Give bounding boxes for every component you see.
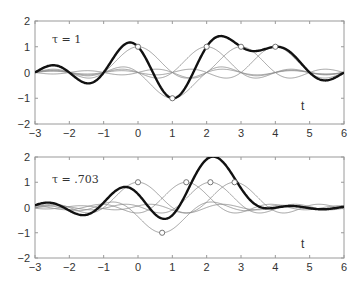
x-tick-label: 4	[272, 261, 278, 273]
sinc-pulse-curve	[35, 47, 344, 78]
x-tick-label: −2	[63, 261, 76, 273]
sample-marker	[170, 96, 175, 101]
annotation-tau-1: τ = 1	[52, 33, 81, 46]
y-tick-label: 2	[24, 15, 30, 27]
y-tick-label: 2	[24, 151, 30, 163]
plot-tau-0703: −3−2−10123456210−1−2	[17, 151, 347, 273]
sample-marker	[232, 180, 237, 185]
x-tick-label: 0	[135, 261, 141, 273]
y-tick-label: −1	[17, 92, 30, 104]
x-tick-label: 3	[238, 127, 244, 139]
figure: −3−2−10123456210−1−2 −3−2−10123456210−1−…	[0, 0, 364, 285]
sample-marker	[204, 44, 209, 49]
y-tick-label: 0	[24, 202, 30, 214]
axes-box	[35, 21, 344, 124]
x-tick-label: −3	[29, 261, 42, 273]
sample-marker	[135, 44, 140, 49]
x-tick-label: 6	[341, 261, 347, 273]
x-tick-label: −3	[29, 127, 42, 139]
x-tick-label: −1	[97, 261, 110, 273]
y-tick-label: −2	[17, 252, 30, 264]
x-tick-label: 4	[272, 127, 278, 139]
sinc-pulse-curve	[35, 47, 344, 78]
sample-marker	[238, 44, 243, 49]
sample-marker	[160, 230, 165, 235]
x-axis-label-bottom: t	[301, 237, 305, 251]
y-tick-label: 0	[24, 67, 30, 79]
sinc-pulse-curve	[35, 47, 344, 78]
sample-marker	[135, 180, 140, 185]
x-axis-label-top: t	[301, 99, 305, 113]
y-tick-label: 1	[24, 176, 30, 188]
x-tick-label: −1	[97, 127, 110, 139]
y-tick-label: −1	[17, 227, 30, 239]
x-tick-label: 5	[307, 127, 313, 139]
sample-marker	[273, 44, 278, 49]
x-tick-label: 1	[169, 127, 175, 139]
x-tick-label: −2	[63, 127, 76, 139]
y-tick-label: −2	[17, 118, 30, 130]
y-tick-label: 1	[24, 41, 30, 53]
x-tick-label: 2	[204, 127, 210, 139]
x-tick-label: 3	[238, 261, 244, 273]
annotation-tau-0703: τ = .703	[52, 173, 99, 186]
x-tick-label: 5	[307, 261, 313, 273]
x-tick-label: 1	[169, 261, 175, 273]
sample-marker	[184, 180, 189, 185]
x-tick-label: 6	[341, 127, 347, 139]
sample-marker	[208, 180, 213, 185]
x-tick-label: 0	[135, 127, 141, 139]
sinc-pulse-curve	[35, 47, 344, 78]
x-tick-label: 2	[204, 261, 210, 273]
